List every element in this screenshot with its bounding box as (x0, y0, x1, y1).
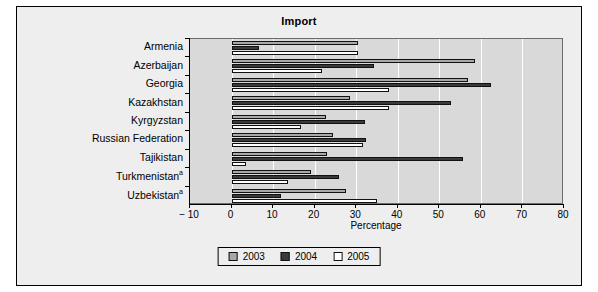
x-axis: − 1001020304050607080 (189, 204, 563, 205)
footnote-marker: a (179, 169, 183, 176)
bar-uzbekistan-2005 (232, 199, 377, 203)
y-label-armenia: Armenia (23, 40, 183, 52)
bar-kyrgyzstan-2003 (232, 115, 327, 119)
bar-georgia-2004 (232, 83, 491, 87)
legend-swatch-2005 (333, 252, 342, 261)
x-tick (521, 204, 522, 208)
bar-uzbekistan-2004 (232, 194, 282, 198)
y-label-georgia: Georgia (23, 77, 183, 89)
bar-kyrgyzstan-2005 (232, 125, 301, 129)
bar-kazakhstan-2004 (232, 101, 451, 105)
y-label-kyrgyzstan: Kyrgyzstan (23, 114, 183, 126)
x-tick-label: 80 (543, 209, 583, 220)
x-axis-title: Percentage (189, 220, 563, 231)
figure-panel: Import ArmeniaAzerbaijanGeorgiaKazakhsta… (16, 6, 582, 286)
legend-swatch-2003 (229, 252, 238, 261)
x-tick (397, 204, 398, 208)
bar-armenia-2005 (232, 51, 358, 55)
bar-tajikistan-2003 (232, 152, 328, 156)
y-axis (189, 38, 190, 204)
x-tick-label: 20 (294, 209, 334, 220)
bar-group (190, 57, 562, 75)
bar-russian-federation-2004 (232, 138, 367, 142)
y-label-uzbekistan: Uzbekistana (23, 188, 183, 201)
legend: 200320042005 (218, 247, 381, 266)
bar-group (190, 39, 562, 57)
y-label-russian-federation: Russian Federation (23, 132, 183, 144)
bar-turkmenistan-2005 (232, 180, 288, 184)
bar-armenia-2004 (232, 46, 259, 50)
y-axis-labels: ArmeniaAzerbaijanGeorgiaKazakhstanKyrgyz… (17, 38, 183, 204)
bar-azerbaijan-2003 (232, 59, 476, 63)
y-tick (185, 130, 189, 131)
bar-armenia-2003 (232, 41, 358, 45)
bar-azerbaijan-2004 (232, 64, 375, 68)
bar-kyrgyzstan-2004 (232, 120, 365, 124)
legend-item-2005[interactable]: 2005 (333, 251, 369, 262)
x-tick (563, 204, 564, 208)
bar-group (190, 150, 562, 168)
bar-group (190, 131, 562, 149)
x-tick (272, 204, 273, 208)
x-tick (314, 204, 315, 208)
y-label-turkmenistan: Turkmenistana (23, 169, 183, 182)
bar-group (190, 187, 562, 205)
y-tick (185, 56, 189, 57)
x-tick (480, 204, 481, 208)
bar-tajikistan-2004 (232, 157, 464, 161)
y-tick (185, 167, 189, 168)
bar-group (190, 94, 562, 112)
x-tick-label: 0 (211, 209, 251, 220)
bar-turkmenistan-2003 (232, 170, 311, 174)
bar-group (190, 113, 562, 131)
legend-label-2003: 2003 (243, 251, 265, 262)
bar-russian-federation-2003 (232, 133, 333, 137)
bar-georgia-2005 (232, 88, 389, 92)
footnote-marker: a (179, 188, 183, 195)
legend-label-2004: 2004 (295, 251, 317, 262)
bar-group (190, 76, 562, 94)
y-tick (185, 93, 189, 94)
bar-azerbaijan-2005 (232, 69, 322, 73)
x-tick (438, 204, 439, 208)
y-label-tajikistan: Tajikistan (23, 151, 183, 163)
y-tick (185, 149, 189, 150)
y-tick (185, 38, 189, 39)
legend-label-2005: 2005 (347, 251, 369, 262)
legend-item-2004[interactable]: 2004 (281, 251, 317, 262)
bar-kazakhstan-2003 (232, 96, 350, 100)
x-tick-label: 10 (252, 209, 292, 220)
y-tick (185, 75, 189, 76)
x-tick-label: 30 (335, 209, 375, 220)
bar-tajikistan-2005 (232, 162, 247, 166)
bar-group (190, 168, 562, 186)
y-tick (185, 112, 189, 113)
bar-uzbekistan-2003 (232, 189, 346, 193)
legend-item-2003[interactable]: 2003 (229, 251, 265, 262)
bar-georgia-2003 (232, 78, 469, 82)
y-tick (185, 186, 189, 187)
x-tick (355, 204, 356, 208)
y-label-kazakhstan: Kazakhstan (23, 96, 183, 108)
legend-swatch-2004 (281, 252, 290, 261)
x-tick (189, 204, 190, 208)
plot-area (189, 38, 563, 204)
x-tick-label: 50 (418, 209, 458, 220)
bar-turkmenistan-2004 (232, 175, 339, 179)
x-tick-label: 40 (377, 209, 417, 220)
x-tick-label: − 10 (169, 209, 209, 220)
x-tick-label: 70 (501, 209, 541, 220)
x-tick-label: 60 (460, 209, 500, 220)
bar-russian-federation-2005 (232, 143, 364, 147)
y-label-azerbaijan: Azerbaijan (23, 59, 183, 71)
x-tick (231, 204, 232, 208)
chart-title: Import (17, 15, 581, 27)
bar-kazakhstan-2005 (232, 106, 389, 110)
